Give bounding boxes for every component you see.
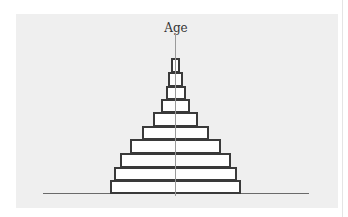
page-edge-divider	[342, 0, 343, 217]
age-group-bar	[166, 86, 186, 100]
age-axis-label: Age	[156, 22, 196, 34]
age-axis	[175, 33, 176, 196]
